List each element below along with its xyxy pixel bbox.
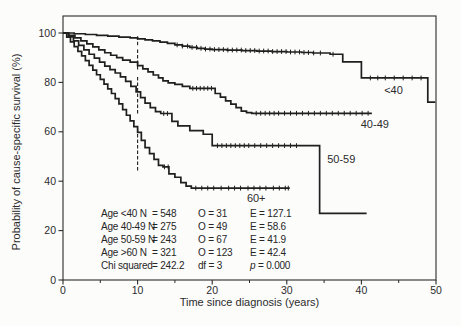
stats-cell: = 548 xyxy=(152,208,198,221)
stats-cell: E = 127.1 xyxy=(250,208,322,221)
curve-label-under-40: <40 xyxy=(384,84,403,96)
x-axis-tick-label: 20 xyxy=(206,284,218,296)
curve-label-50-59: 50-59 xyxy=(327,153,355,165)
stats-cell: Age 50-59 N xyxy=(101,234,152,247)
km-survival-figure: 02040608010001020304050<4040-4950-5960+ … xyxy=(0,0,461,326)
survival-curve-50-59 xyxy=(63,33,367,213)
survival-curve-60-plus xyxy=(63,33,290,188)
stats-cell: O = 67 xyxy=(198,234,250,247)
stats-cell: = 275 xyxy=(152,221,198,234)
stats-cell: Chi squared xyxy=(101,260,152,273)
y-axis-tick-label: 100 xyxy=(38,27,56,39)
y-axis-tick-label: 60 xyxy=(44,125,56,137)
stats-cell: = 321 xyxy=(152,247,198,260)
stats-cell-p-value: p = 0.000 xyxy=(250,260,322,273)
stats-cell: E = 41.9 xyxy=(250,234,322,247)
curve-label-60-plus: 60+ xyxy=(247,192,266,204)
y-axis-title: Probability of cause-specific survival (… xyxy=(10,54,22,251)
stats-cell: Age 40-49 N xyxy=(101,221,152,234)
y-axis-tick-label: 80 xyxy=(44,76,56,88)
survival-curve-under-40 xyxy=(63,33,435,102)
stats-cell: O = 31 xyxy=(198,208,250,221)
stats-cell: O = 123 xyxy=(198,247,250,260)
p-symbol: p xyxy=(250,260,255,271)
x-axis-tick-label: 0 xyxy=(60,284,66,296)
stats-cell: df = 3 xyxy=(198,260,250,273)
stats-cell: = 242.2 xyxy=(152,260,198,273)
stats-cell: Age <40 N xyxy=(101,208,152,221)
stats-table: Age <40 N = 548 O = 31 E = 127.1 Age 40-… xyxy=(101,208,322,273)
stats-cell: E = 42.4 xyxy=(250,247,322,260)
stats-cell: Age >60 N xyxy=(101,247,152,260)
p-value: = 0.000 xyxy=(258,260,290,271)
y-axis-tick-label: 20 xyxy=(44,224,56,236)
x-axis-tick-label: 10 xyxy=(132,284,144,296)
stats-cell: O = 49 xyxy=(198,221,250,234)
stats-cell: = 243 xyxy=(152,234,198,247)
y-axis-tick-label: 40 xyxy=(44,175,56,187)
y-axis-tick-label: 0 xyxy=(50,274,56,286)
curve-label-40-49: 40-49 xyxy=(361,118,389,130)
x-axis-tick-label: 40 xyxy=(356,284,368,296)
x-axis-tick-label: 50 xyxy=(430,284,442,296)
survival-chart: 02040608010001020304050<4040-4950-5960+ xyxy=(0,0,461,326)
x-axis-tick-label: 30 xyxy=(281,284,293,296)
x-axis-title: Time since diagnosis (years) xyxy=(63,296,436,308)
survival-curve-40-49 xyxy=(63,33,372,113)
stats-cell: E = 58.6 xyxy=(250,221,322,234)
